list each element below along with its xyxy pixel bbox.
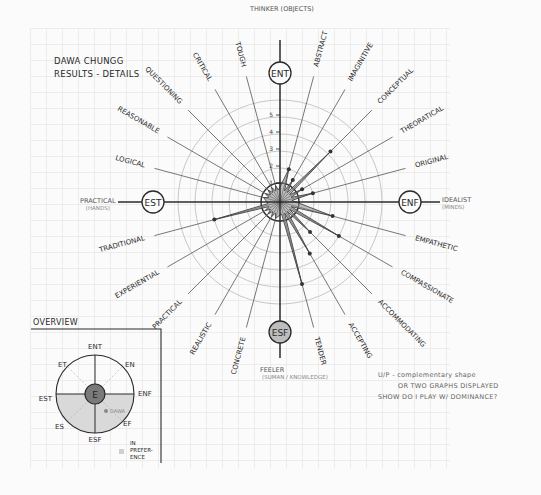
axis-right-label: IDEALIST (MINDS) — [442, 196, 471, 210]
radar-spoke — [215, 202, 280, 315]
radar-spoke — [188, 202, 280, 294]
scale-tick-label: 2 — [269, 162, 273, 169]
data-point — [291, 178, 295, 182]
data-point — [212, 218, 216, 222]
note-line-3: SHOW DO I PLAY W/ DOMINANCE? — [378, 392, 499, 403]
trait-label: CONCEPTUAL — [376, 67, 415, 106]
trait-label: LOGICAL — [115, 154, 146, 170]
pole-label: ENT — [271, 69, 289, 79]
axis-right-title: IDEALIST — [442, 196, 471, 204]
trait-label: QUESTIONING — [143, 65, 184, 106]
data-point — [308, 252, 312, 256]
overview-label-n: ENT — [88, 343, 103, 351]
trait-label: TENDER — [312, 335, 327, 366]
data-point — [311, 191, 315, 195]
radar-spoke — [167, 202, 280, 267]
axis-left-title: PRACTICAL — [80, 197, 116, 205]
overview-legend-label: INPREFER-ENCE — [130, 440, 153, 460]
scale-tick-label: 5 — [269, 111, 273, 118]
radar-scale-ticks: 12345 — [269, 111, 280, 186]
axis-left-sub: (HANDS) — [80, 205, 116, 211]
axis-bottom-label: FEELER (SUMAN / KNOWLEDGE) — [260, 366, 328, 380]
design-note: U/P - complementary shape OR TWO GRAPHS … — [378, 370, 499, 403]
trait-label: IMAGINITIVE — [346, 41, 375, 82]
scale-tick-label: 4 — [269, 128, 273, 135]
overview-label-se: EF — [123, 420, 131, 428]
pole-label: ESF — [272, 328, 289, 338]
trait-label: ACCOMMODATING — [376, 298, 427, 349]
scale-tick-label: 1 — [269, 179, 273, 186]
trait-label: CRITICAL — [191, 51, 214, 83]
trait-label: ORIGINAL — [414, 153, 449, 170]
overview-legend-swatch — [119, 449, 124, 454]
overview-label-w: EST — [39, 395, 53, 403]
axis-bottom-title: FEELER — [260, 366, 328, 374]
overview-label-s: ESF — [89, 436, 102, 444]
axis-left-label: PRACTICAL (HANDS) — [80, 197, 116, 211]
radar-diagram: ABSTRACTIMAGINITIVECONCEPTUALTHEORATICAL… — [0, 0, 541, 495]
radar-spoke — [188, 110, 280, 202]
trait-label: REASONABLE — [116, 105, 161, 136]
data-point — [300, 187, 304, 191]
overview-diagram: EDAWAENTENENFEFESFESESTETINPREFER-ENCE — [31, 329, 161, 463]
data-point — [287, 167, 291, 171]
trait-label: REALISTIC — [189, 321, 214, 356]
pole-label: ENF — [401, 198, 419, 208]
note-line-2: OR TWO GRAPHS DISPLAYED — [398, 381, 499, 392]
trait-label: THEORATICAL — [398, 104, 445, 136]
trait-label: EXPERIENTIAL — [114, 268, 161, 300]
overview-label-ne: EN — [125, 361, 135, 369]
trait-label: CONCRETE — [230, 336, 248, 375]
axis-top-label: THINKER (OBJECTS) — [250, 5, 314, 13]
trait-label: COMPASSIONATE — [399, 268, 455, 305]
axis-right-sub: (MINDS) — [442, 204, 471, 210]
overview-title: OVERVIEW — [33, 318, 78, 327]
overview-label-nw: ET — [58, 361, 67, 369]
trait-label: TOUGH — [233, 40, 248, 68]
axis-bottom-sub: (SUMAN / KNOWLEDGE) — [262, 374, 328, 380]
data-point — [328, 150, 332, 154]
trait-label: TRADITIONAL — [97, 234, 145, 254]
data-point — [331, 214, 335, 218]
data-point — [308, 230, 312, 234]
pole-label: EST — [145, 198, 162, 208]
trait-label: ACCEPTING — [347, 321, 374, 360]
trait-label: EMPATHETIC — [414, 234, 458, 253]
overview-marker-label: DAWA — [110, 408, 126, 414]
radar-spoke — [167, 137, 280, 202]
overview-label-e: ENF — [138, 390, 152, 398]
note-line-1: U/P - complementary shape — [378, 370, 499, 381]
overview-label-sw: ES — [55, 423, 64, 431]
scale-tick-label: 3 — [269, 145, 273, 152]
overview-marker — [104, 409, 108, 413]
trait-label: ABSTRACT — [312, 30, 329, 68]
trait-label: PRACTICAL — [151, 298, 184, 331]
data-point — [300, 282, 304, 286]
overview-center-label: E — [92, 390, 98, 400]
data-point — [337, 234, 341, 238]
